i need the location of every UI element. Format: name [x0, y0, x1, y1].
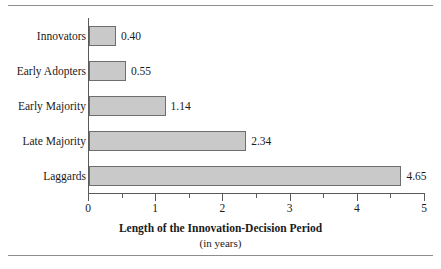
bar-value-label: 2.34 [251, 134, 271, 148]
x-tick-major [357, 194, 358, 201]
bar-value-label: 0.55 [131, 64, 151, 78]
bar [89, 166, 401, 186]
x-tick-minor [122, 194, 123, 198]
x-tick-label: 2 [207, 201, 237, 215]
x-tick-minor [323, 194, 324, 198]
x-tick-label: 0 [73, 201, 103, 215]
bar [89, 131, 246, 151]
x-axis-title: Length of the Innovation-Decision Period [0, 221, 441, 235]
x-tick-label: 1 [140, 201, 170, 215]
x-tick-minor [390, 194, 391, 198]
category-label: Early Adopters [0, 64, 86, 78]
category-label: Late Majority [0, 134, 86, 148]
x-tick-major [222, 194, 223, 201]
bar [89, 61, 126, 81]
x-tick-minor [189, 194, 190, 198]
x-axis-subtitle: (in years) [0, 236, 441, 250]
x-tick-label: 5 [409, 201, 439, 215]
x-tick-label: 4 [342, 201, 372, 215]
category-label: Early Majority [0, 99, 86, 113]
x-tick-major [88, 194, 89, 201]
bar-value-label: 1.14 [171, 99, 191, 113]
x-tick-label: 3 [275, 201, 305, 215]
bar-value-label: 4.65 [406, 169, 426, 183]
x-tick-major [424, 194, 425, 201]
category-label: Innovators [0, 29, 86, 43]
x-tick-major [290, 194, 291, 201]
bar [89, 96, 166, 116]
bar-chart: 012345 Innovators0.40Early Adopters0.55E… [0, 0, 441, 269]
x-tick-minor [256, 194, 257, 198]
x-tick-major [155, 194, 156, 201]
category-label: Laggards [0, 169, 86, 183]
bar-value-label: 0.40 [121, 29, 141, 43]
bar [89, 26, 116, 46]
